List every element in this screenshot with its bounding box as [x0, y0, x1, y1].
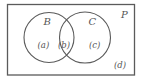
set-c-label: C	[89, 16, 97, 27]
universe-label: P	[120, 9, 128, 20]
region-c-label: (c)	[89, 40, 100, 50]
venn-diagram: P B C (a) (b) (c) (d)	[0, 0, 144, 80]
set-b-label: B	[43, 16, 51, 27]
region-a-label: (a)	[38, 40, 50, 50]
region-b-label: (b)	[58, 40, 70, 50]
set-c-circle	[60, 12, 111, 63]
region-d-label: (d)	[114, 60, 126, 70]
